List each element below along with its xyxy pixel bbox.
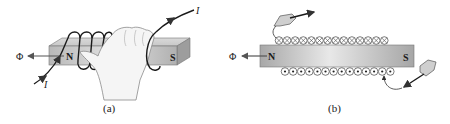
conductor-into-page: [356, 37, 364, 45]
conductor-out-of-page: [346, 68, 354, 76]
conductor-into-page: [300, 37, 308, 45]
conductor-out-of-page: [387, 68, 395, 76]
conductor-out-of-page: [338, 68, 346, 76]
conductor-into-page: [324, 37, 332, 45]
conductor-into-page: [348, 37, 356, 45]
conductor-into-page: [340, 37, 348, 45]
conductor-into-page: [381, 37, 389, 45]
top-conductors-into-page: [275, 37, 388, 45]
conductor-out-of-page: [314, 68, 322, 76]
panel-b: N S Φ (b): [229, 12, 436, 115]
north-pole-label-b: N: [268, 51, 276, 62]
conductor-into-page: [291, 37, 299, 45]
current-label-in-a: I: [43, 79, 48, 90]
conductor-into-page: [372, 37, 380, 45]
south-pole-label-b: S: [403, 52, 409, 63]
conductor-into-page: [283, 37, 291, 45]
conductor-out-of-page: [289, 68, 297, 76]
flux-symbol-b: Φ: [229, 51, 236, 62]
conductor-out-of-page: [322, 68, 330, 76]
conductor-into-page: [364, 37, 372, 45]
conductor-out-of-page: [354, 68, 362, 76]
figure: N S Φ I I (a) N S Φ (b): [0, 0, 450, 124]
figure-canvas: N S Φ I I (a) N S Φ (b): [0, 0, 450, 124]
conductor-out-of-page: [362, 68, 370, 76]
conductor-into-page: [332, 37, 340, 45]
flux-symbol-a: Φ: [16, 51, 23, 62]
bar-magnet-b: [260, 45, 414, 67]
conductor-out-of-page: [330, 68, 338, 76]
caption-a: (a): [103, 102, 116, 115]
north-pole-label-a: N: [66, 51, 74, 62]
conductor-out-of-page: [297, 68, 305, 76]
dart-arrow-top: [273, 12, 314, 38]
bottom-conductors-out-of-page: [281, 68, 394, 76]
conductor-out-of-page: [306, 68, 314, 76]
conductor-out-of-page: [378, 68, 386, 76]
conductor-into-page: [316, 37, 324, 45]
panel-a: N S Φ I I (a): [16, 5, 200, 115]
conductor-into-page: [275, 37, 283, 45]
south-pole-label-a: S: [170, 52, 176, 63]
conductor-out-of-page: [281, 68, 289, 76]
caption-b: (b): [328, 102, 341, 115]
current-label-out-a: I: [195, 5, 200, 16]
conductor-out-of-page: [370, 68, 378, 76]
conductor-into-page: [308, 37, 316, 45]
